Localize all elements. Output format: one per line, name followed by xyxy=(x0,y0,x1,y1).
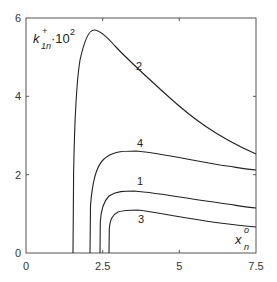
x-tick-label: 0 xyxy=(23,260,29,272)
svg-text:o: o xyxy=(244,225,249,235)
svg-text:+: + xyxy=(42,26,47,36)
curve-label-1: 1 xyxy=(137,175,143,187)
svg-text:2: 2 xyxy=(70,27,75,37)
curve-label-4: 4 xyxy=(137,137,143,149)
svg-text:n: n xyxy=(244,242,249,252)
x-tick-label: 5 xyxy=(176,260,182,272)
y-tick-label: 2 xyxy=(15,169,21,181)
y-axis-title: k + 1n ·10 2 xyxy=(33,26,75,51)
y-tick-label: 6 xyxy=(15,12,21,24)
x-tick-label: 7.5 xyxy=(248,260,263,272)
curve-label-2: 2 xyxy=(136,60,142,72)
curve-1 xyxy=(100,191,256,253)
curve-4 xyxy=(90,151,256,253)
svg-text:k: k xyxy=(33,31,41,46)
curve-3 xyxy=(109,210,256,253)
curve-label-3: 3 xyxy=(138,213,144,225)
y-tick-label: 0 xyxy=(15,247,21,259)
svg-text:·10: ·10 xyxy=(51,31,70,46)
line-chart: 0 2.5 5 7.5 0 2 4 6 2 4 1 3 k + 1n ·10 2… xyxy=(0,0,277,282)
y-tick-label: 4 xyxy=(15,90,21,102)
svg-text:x: x xyxy=(234,232,242,247)
x-tick-label: 2.5 xyxy=(95,260,110,272)
y-ticks xyxy=(26,96,256,174)
x-axis-title: x o n xyxy=(234,225,249,252)
svg-text:1n: 1n xyxy=(41,41,51,51)
